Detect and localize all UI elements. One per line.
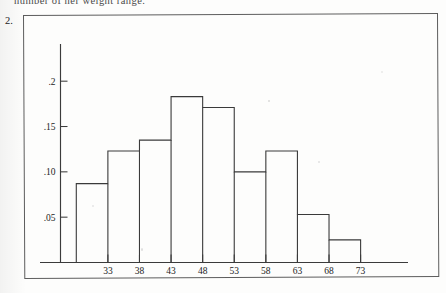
cutoff-running-text: number of her weight range. bbox=[14, 0, 224, 7]
figure-frame bbox=[23, 13, 439, 279]
question-number: 2. bbox=[5, 15, 13, 26]
scanned-page: number of her weight range. 2. .05.10.15… bbox=[0, 0, 446, 293]
